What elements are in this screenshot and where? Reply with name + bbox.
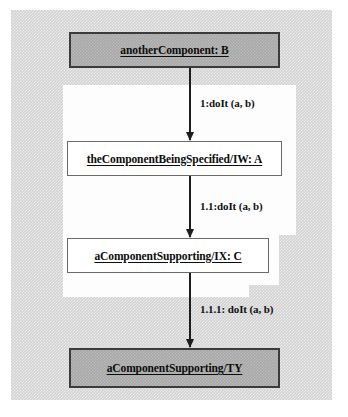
object-box-a-component-supporting-ty[interactable]: aComponentSupporting/TY xyxy=(69,348,280,388)
arrow-shaft-icon xyxy=(189,176,191,237)
message-label: 1.1.1: doIt (a, b) xyxy=(200,303,273,315)
message-arrow-1[interactable]: 1:doIt (a, b) xyxy=(189,68,190,140)
arrow-head-icon xyxy=(186,132,194,141)
message-arrow-1-1[interactable]: 1.1:doIt (a, b) xyxy=(189,176,190,237)
diagram-canvas: anotherComponent: B theComponentBeingSpe… xyxy=(0,0,348,417)
arrow-shaft-icon xyxy=(189,273,191,347)
object-box-a-component-supporting-ix-c[interactable]: aComponentSupporting/IX: C xyxy=(67,238,269,273)
inner-white-region-bottom xyxy=(63,285,249,297)
arrow-shaft-icon xyxy=(189,68,191,140)
arrow-head-icon xyxy=(186,229,194,238)
object-label: theComponentBeingSpecified/IW: A xyxy=(87,153,262,165)
diagram-outer-panel xyxy=(11,10,332,400)
message-arrow-1-1-1[interactable]: 1.1.1: doIt (a, b) xyxy=(189,273,190,347)
message-label: 1:doIt (a, b) xyxy=(200,97,255,109)
message-label: 1.1:doIt (a, b) xyxy=(200,200,263,212)
object-box-the-component-being-specified-iw-a[interactable]: theComponentBeingSpecified/IW: A xyxy=(67,141,282,176)
object-label: aComponentSupporting/IX: C xyxy=(94,250,241,262)
object-label: anotherComponent: B xyxy=(120,44,228,56)
arrow-head-icon xyxy=(186,339,194,348)
object-box-another-component-b[interactable]: anotherComponent: B xyxy=(69,32,280,68)
object-label: aComponentSupporting/TY xyxy=(107,362,243,374)
